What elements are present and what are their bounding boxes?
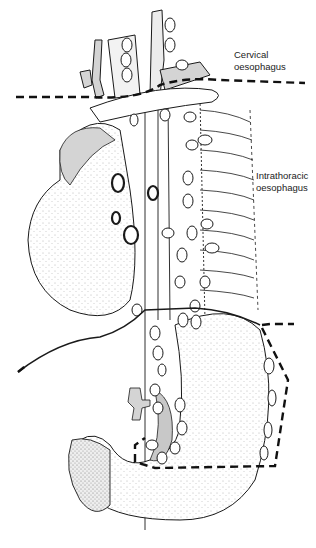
label-cervical-line2: oesophagus xyxy=(234,61,286,73)
label-intrathoracic-line2: oesophagus xyxy=(256,182,308,194)
label-intrathoracic-oesophagus: Intrathoracic oesophagus xyxy=(256,170,308,194)
label-cervical-oesophagus: Cervical oesophagus xyxy=(234,49,286,73)
anatomy-illustration xyxy=(0,0,316,548)
duodenum xyxy=(68,439,110,512)
label-intrathoracic-line1: Intrathoracic xyxy=(256,170,308,182)
celiac-trunk xyxy=(128,388,150,420)
label-cervical-line1: Cervical xyxy=(234,49,286,61)
clavicle xyxy=(90,88,219,122)
neck-structures xyxy=(80,10,210,98)
